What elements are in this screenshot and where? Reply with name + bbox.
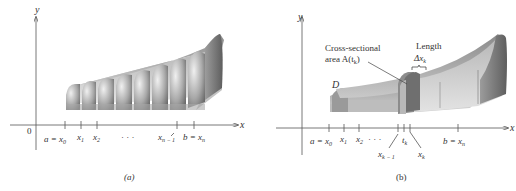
cross-section-label-line1: Cross-sectional [325,43,381,53]
tick-label-a: a = x0 [44,134,66,145]
tick-labels: a = x0 x1 x2 · · · xn − 1 b = xn [44,132,205,145]
tick-label-tk: tk [402,135,408,146]
cross-section-label-line2: area A(tk) [325,54,360,65]
panel-a: y x 0 a = x0 x1 x2 · · · xn − 1 b = xn (… [10,4,245,182]
length-brace-icon [412,65,426,70]
length-label-line2: Δxk [413,53,426,64]
tick-label-x1: x1 [339,134,347,145]
y-axis-label: y [34,4,40,15]
y-axis-label: y [297,11,303,22]
sliced-solid [66,34,224,110]
tick-label-x2: x2 [92,132,100,143]
cross-section-slab [398,72,420,114]
origin-label: 0 [27,126,32,136]
x-axis-label: x [239,119,245,130]
tick-label-x2: x2 [355,134,363,145]
panel-b: y x a = x0 x1 x2 · · · xk − 1 tk xk b = … [276,11,515,182]
solid-label-D: D [331,79,340,90]
tick-label-xk: xk [417,149,425,160]
figure-canvas: y x 0 a = x0 x1 x2 · · · xn − 1 b = xn (… [0,0,516,191]
tick-label-x1: x1 [76,132,84,143]
tick-label-xn-1: xn − 1 [157,132,175,143]
tick-label-a: a = x0 [310,136,332,147]
tick-label-xk-1: xk − 1 [377,149,395,160]
tick-labels: a = x0 x1 x2 · · · xk − 1 tk xk b = xn [310,134,465,160]
x-axis-label: x [509,122,515,133]
slab-row [66,51,205,110]
tick-label-ellipsis: · · · [368,134,382,144]
caption-a: (a) [124,172,135,182]
tick-label-b: b = xn [443,136,465,147]
caption-b: (b) [396,172,407,182]
tick-label-ellipsis: · · · [121,132,135,142]
cross-section-leader [368,62,407,84]
length-label-line1: Length [416,41,442,51]
tick-label-b: b = xn [183,132,205,143]
